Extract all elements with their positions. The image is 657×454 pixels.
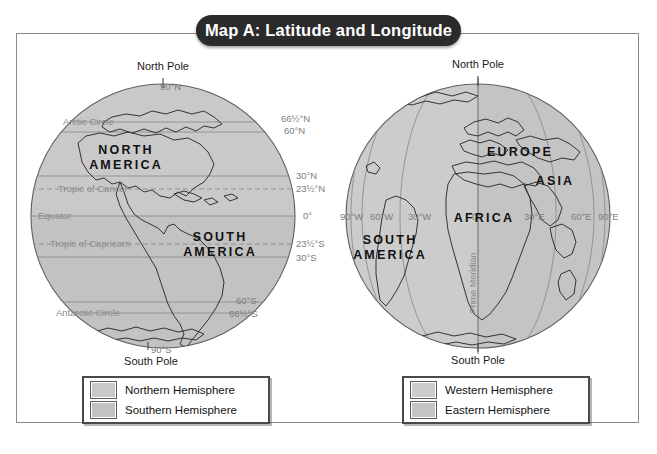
- lon-label-60w: 60°W: [370, 211, 393, 222]
- northern-hemisphere-swatch: [90, 381, 117, 399]
- lat-label-30s: 30°S: [296, 252, 317, 263]
- continent-label-south-america: SOUTHAMERICA: [353, 233, 427, 262]
- lon-label-60e: 60°E: [571, 211, 592, 222]
- lon-label-30e: 30°E: [524, 211, 545, 222]
- line-label-arctic-circle: Arctic Circle: [63, 116, 114, 127]
- legend-item: Southern Hemisphere: [90, 401, 262, 419]
- line-label-antarctic-circle: Antarctic Circle: [56, 307, 120, 318]
- legend-item-label: Southern Hemisphere: [125, 404, 237, 416]
- page-title: Map A: Latitude and Longitude: [196, 15, 461, 46]
- eastern-hemisphere-fill: [478, 48, 638, 368]
- lat-label-0: 0°: [303, 210, 312, 221]
- south-pole-label: South Pole: [124, 355, 178, 367]
- lat-label-30n: 30°N: [296, 170, 317, 181]
- north-pole-label: North Pole: [137, 60, 189, 72]
- lon-label-90e: 90°E: [598, 211, 619, 222]
- continent-label-south-america: SOUTHAMERICA: [183, 230, 257, 259]
- lon-label-30w: 30°W: [408, 211, 431, 222]
- southern-hemisphere-swatch: [90, 401, 117, 419]
- continent-label-asia: ASIA: [536, 174, 575, 188]
- map-page: Map A: Latitude and Longitude: [0, 0, 657, 454]
- lat-label-66n: 66½°N: [281, 113, 310, 124]
- hemisphere-legend-longitude: Western Hemisphere Eastern Hemisphere: [402, 376, 590, 424]
- continent-label-africa: AFRICA: [454, 211, 514, 225]
- legend-item-label: Northern Hemisphere: [125, 384, 235, 396]
- lat-label-60s: 60°S: [236, 295, 257, 306]
- line-label-tropic-of-cancer: Tropic of Cancer: [58, 183, 128, 194]
- western-hemisphere-swatch: [410, 381, 437, 399]
- latitude-globe: 90°N 66½°N 60°N 30°N 23½°N 0° 23½°S 30°S…: [8, 48, 328, 368]
- legend-item: Western Hemisphere: [410, 381, 582, 399]
- lat-label-66s: 66½°S: [229, 308, 258, 319]
- hemisphere-fills: [8, 48, 328, 368]
- legend-item: Eastern Hemisphere: [410, 401, 582, 419]
- legend-item: Northern Hemisphere: [90, 381, 262, 399]
- prime-meridian-label: Prime Meridian: [468, 253, 478, 314]
- lat-label-90n: 90°N: [160, 81, 181, 92]
- north-pole-label: North Pole: [452, 58, 504, 70]
- line-label-equator: Equator: [38, 210, 71, 221]
- hemisphere-legend-latitude: Northern Hemisphere Southern Hemisphere: [82, 376, 270, 424]
- legend-item-label: Eastern Hemisphere: [445, 404, 550, 416]
- continent-label-north-america: NORTHAMERICA: [89, 143, 163, 172]
- lon-label-90w: 90°W: [340, 211, 363, 222]
- legend-item-label: Western Hemisphere: [445, 384, 553, 396]
- lat-label-90s: 90°S: [151, 344, 172, 355]
- western-hemisphere-fill: [318, 48, 478, 368]
- eastern-hemisphere-swatch: [410, 401, 437, 419]
- line-label-tropic-of-capricorn: Tropic of Capricorn: [50, 238, 130, 249]
- continent-label-europe: EUROPE: [487, 145, 553, 159]
- south-pole-label: South Pole: [451, 354, 505, 366]
- lat-label-60n: 60°N: [284, 125, 305, 136]
- longitude-globe: 90°W 60°W 30°W 0° 30°E 60°E 90°E Prime M…: [318, 48, 638, 368]
